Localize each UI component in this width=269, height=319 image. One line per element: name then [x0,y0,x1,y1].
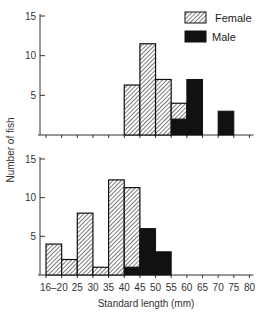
bar-female [124,85,140,135]
bar-female [124,188,140,268]
legend-female-swatch [185,12,206,23]
x-tick-label: 70 [213,282,225,293]
x-tick-label: 60 [181,282,193,293]
x-tick-label: 50 [150,282,162,293]
x-tick-label: 45 [134,282,146,293]
y-tick-label: 15 [25,11,37,22]
bar-male [171,119,187,135]
bar-female [46,244,62,275]
x-tick-label: 80 [244,282,256,293]
x-tick-label: 65 [197,282,209,293]
x-axis-title: Standard length (mm) [98,298,195,309]
bar-female [171,103,187,119]
legend: FemaleMale [185,12,252,43]
x-tick-label: 25 [72,282,84,293]
bar-female [62,260,78,275]
y-tick-label: 10 [25,192,37,203]
y-tick-label: 5 [30,231,36,242]
bar-female [93,267,109,275]
y-tick-label: 5 [30,90,36,101]
bar-male [156,252,172,275]
x-tick-label: 30 [87,282,99,293]
bar-female [77,213,93,275]
x-tick-label: 75 [228,282,240,293]
bar-male [140,229,156,275]
legend-female-text: Female [215,12,252,24]
x-tick-label: 40 [119,282,131,293]
x-tick-label: 55 [166,282,178,293]
x-tick-label: 35 [103,282,115,293]
bar-female [140,44,156,135]
top-histogram-panel: 51015 [25,11,254,139]
bottom-histogram-panel: 51015 [25,154,254,279]
bar-male [218,111,234,135]
bar-female [156,79,172,135]
y-axis-title: Number of fish [5,117,16,182]
bar-female [109,180,125,275]
y-tick-label: 10 [25,50,37,61]
bar-male [187,79,203,135]
y-tick-label: 15 [25,154,37,165]
histogram-figure: 51015 51015 FemaleMale 16–20253035404550… [0,0,269,319]
legend-male-swatch [185,31,206,42]
x-tick-label: 16–20 [40,282,68,293]
legend-male-text: Male [212,31,236,43]
bar-male [124,267,140,275]
